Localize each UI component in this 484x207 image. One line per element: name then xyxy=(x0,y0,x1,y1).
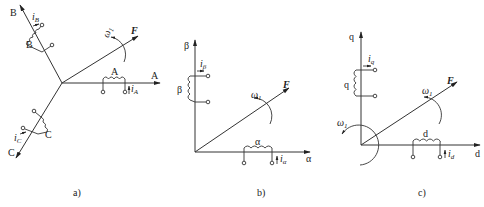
coil-a: A iA xyxy=(101,66,139,96)
panel-b-alpha-beta: α β F ω1 β iβ α iα b) xyxy=(177,40,312,199)
axis-d-label: d xyxy=(475,148,480,159)
axis-alpha-label: α xyxy=(306,153,312,164)
panel-a-caption: a) xyxy=(73,187,81,199)
coil-alpha-label: α xyxy=(255,136,261,147)
coil-q-label: q xyxy=(344,79,349,90)
frame-omega-label: ω1 xyxy=(337,117,348,130)
coil-a-label: A xyxy=(111,66,119,77)
current-ia-label: iA xyxy=(131,83,139,96)
vector-f-label: F xyxy=(282,79,290,90)
current-ib-label: iB xyxy=(32,11,40,24)
mmf-vector-f xyxy=(361,82,457,145)
rotation-arc xyxy=(111,37,126,62)
omega-label: ω1 xyxy=(251,89,262,102)
axis-a-label: A xyxy=(151,70,159,81)
mmf-vector-f xyxy=(62,36,138,83)
coil-alpha: α iα xyxy=(242,136,287,166)
panel-c-caption: c) xyxy=(418,187,426,199)
axis-c xyxy=(16,83,62,158)
vector-f-label: F xyxy=(446,75,454,86)
axis-b-label: B xyxy=(10,7,17,18)
current-ialpha-label: iα xyxy=(280,153,287,166)
coil-b-label: B xyxy=(26,39,33,50)
rotation-arc xyxy=(424,97,441,124)
coil-b: B iB xyxy=(26,11,54,52)
coordinate-transformation-figure: A B C F ω1 A iA B iB xyxy=(0,0,484,207)
coil-beta: β iβ xyxy=(177,58,210,104)
vector-f-label: F xyxy=(130,25,138,36)
current-id-label: id xyxy=(448,148,455,161)
coil-q: q iq xyxy=(344,53,377,98)
axis-c-label: C xyxy=(8,147,15,158)
axis-beta-label: β xyxy=(184,40,189,51)
panel-a-three-phase: A B C F ω1 A iA B iB xyxy=(8,5,160,199)
panel-c-d-q: d q F ω1 ω1 q iq d xyxy=(337,31,480,199)
current-ibeta-label: iβ xyxy=(200,58,207,71)
coil-beta-label: β xyxy=(177,84,182,95)
coil-c: C iC xyxy=(14,109,52,145)
axis-q-label: q xyxy=(349,31,354,42)
coil-c-label: C xyxy=(45,129,52,140)
panel-b-caption: b) xyxy=(257,187,265,199)
omega-label: ω1 xyxy=(422,85,433,98)
coil-d-label: d xyxy=(423,128,428,139)
current-iq-label: iq xyxy=(368,53,375,66)
mmf-vector-f xyxy=(195,88,289,152)
